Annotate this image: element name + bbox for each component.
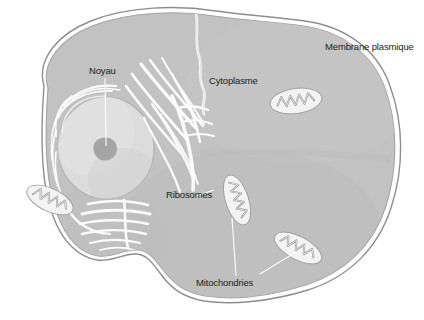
label-membrane-plasmique: Membrane plasmique xyxy=(325,42,414,52)
nucleolus-shadow xyxy=(96,143,112,157)
label-mitochondries: Mitochondries xyxy=(196,278,253,288)
label-noyau: Noyau xyxy=(89,66,116,76)
cell-diagram-figure: Membrane plasmique Noyau Cytoplasme Ribo… xyxy=(0,0,424,320)
label-ribosomes: Ribosomes xyxy=(166,190,212,200)
label-cytoplasme: Cytoplasme xyxy=(209,76,258,86)
